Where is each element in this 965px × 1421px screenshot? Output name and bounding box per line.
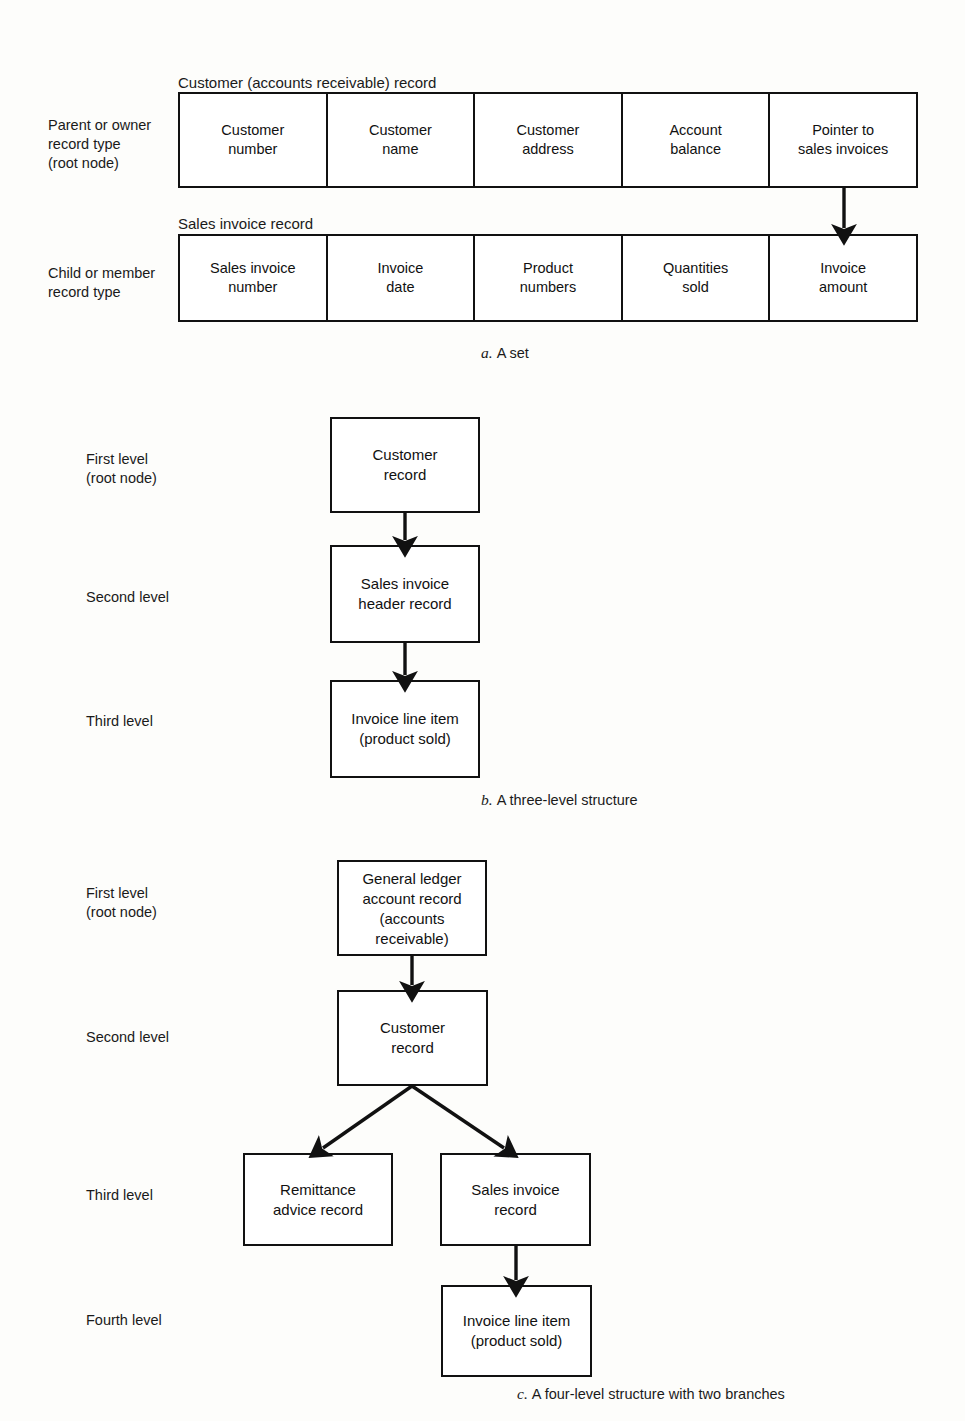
- record-field-invoice-date: Invoice date: [328, 236, 476, 320]
- panel-c-node-invoice-line-item: Invoice line item (product sold): [441, 1285, 592, 1377]
- panel-c-level-4-label: Fourth level: [86, 1311, 162, 1330]
- panel-c-node-sales-invoice-record: Sales invoice record: [440, 1153, 591, 1246]
- panel-a-parent-label: Parent or owner record type (root node): [48, 116, 151, 173]
- record-field-account-balance: Account balance: [623, 94, 771, 186]
- panel-c-caption: c.A four-level structure with two branch…: [517, 1385, 785, 1403]
- panel-b-level-2-label: Second level: [86, 588, 169, 607]
- customer-record-row: Customer number Customer name Customer a…: [178, 92, 918, 188]
- panel-c-caption-letter: c.: [517, 1385, 532, 1402]
- record-field-product-numbers: Product numbers: [475, 236, 623, 320]
- panel-b-node-sales-invoice-header-record: Sales invoice header record: [330, 545, 480, 643]
- figure-page: Parent or owner record type (root node) …: [0, 0, 965, 1421]
- panel-c-arrow-second-to-sales-invoice: [412, 1086, 504, 1148]
- panel-c-node-general-ledger-account-record: General ledger account record (accounts …: [337, 860, 487, 956]
- panel-a-child-label: Child or member record type: [48, 264, 155, 302]
- panel-b-caption-letter: b.: [481, 791, 497, 808]
- record-field-pointer-to-invoices: Pointer to sales invoices: [770, 94, 916, 186]
- panel-b-level-1-label: First level (root node): [86, 450, 157, 488]
- panel-b-node-customer-record: Customer record: [330, 417, 480, 513]
- record-field-quantities-sold: Quantities sold: [623, 236, 771, 320]
- record-field-invoice-amount: Invoice amount: [770, 236, 916, 320]
- panel-b-caption-text: A three-level structure: [497, 792, 638, 808]
- panel-a-caption: a.A set: [481, 344, 529, 362]
- record-field-customer-number: Customer number: [180, 94, 328, 186]
- panel-a-child-record-title: Sales invoice record: [178, 215, 313, 233]
- panel-b-caption: b.A three-level structure: [481, 791, 638, 809]
- record-field-sales-invoice-number: Sales invoice number: [180, 236, 328, 320]
- panel-a-caption-text: A set: [497, 345, 529, 361]
- panel-c-level-1-label: First level (root node): [86, 884, 157, 922]
- panel-c-arrow-second-to-remittance: [323, 1086, 412, 1148]
- sales-invoice-record-row: Sales invoice number Invoice date Produc…: [178, 234, 918, 322]
- record-field-customer-address: Customer address: [475, 94, 623, 186]
- panel-c-caption-text: A four-level structure with two branches: [532, 1386, 785, 1402]
- panel-b-node-invoice-line-item: Invoice line item (product sold): [330, 680, 480, 778]
- panel-a-parent-record-title: Customer (accounts receivable) record: [178, 74, 436, 92]
- panel-c-node-customer-record: Customer record: [337, 990, 488, 1086]
- panel-c-node-remittance-advice-record: Remittance advice record: [243, 1153, 393, 1246]
- panel-b-level-3-label: Third level: [86, 712, 153, 731]
- panel-c-level-2-label: Second level: [86, 1028, 169, 1047]
- panel-a-caption-letter: a.: [481, 344, 497, 361]
- record-field-customer-name: Customer name: [328, 94, 476, 186]
- panel-c-level-3-label: Third level: [86, 1186, 153, 1205]
